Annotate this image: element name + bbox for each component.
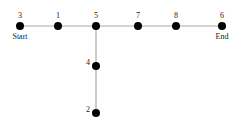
node-label-6: 6 [220,11,224,20]
node-label-5: 5 [94,11,98,20]
node-7 [134,22,142,30]
node-label-1: 1 [56,11,60,20]
node-5 [92,22,100,30]
node-1 [54,22,62,30]
node-tag-start: Start [12,32,28,41]
node-6 [218,22,226,30]
node-tag-end: End [216,32,229,41]
node-4 [92,62,100,70]
node-3 [16,22,24,30]
node-label-7: 7 [136,11,140,20]
graph-diagram: 3Start15786End42 [0,0,244,124]
node-label-3: 3 [18,11,22,20]
node-label-2: 2 [86,105,90,114]
node-label-8: 8 [174,11,178,20]
node-8 [172,22,180,30]
node-2 [92,109,100,117]
node-label-4: 4 [86,58,90,67]
